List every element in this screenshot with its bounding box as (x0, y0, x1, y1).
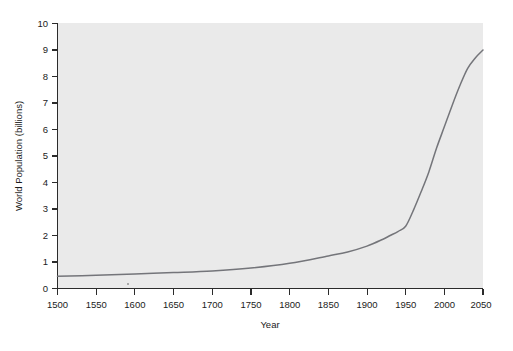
x-tick-label: 1750 (240, 299, 261, 310)
y-tick-label: 4 (43, 177, 48, 188)
figure-container: 0 1 2 3 4 5 6 7 8 9 10 (0, 0, 513, 351)
x-axis-ticks (58, 289, 484, 296)
x-tick-label: 1900 (357, 299, 378, 310)
x-tick-label: 2050 (470, 299, 491, 310)
y-tick-label: 5 (43, 150, 48, 161)
x-tick-label: 1850 (318, 299, 339, 310)
y-axis-title: World Population (billions) (13, 101, 24, 211)
x-tick-label: 1700 (202, 299, 223, 310)
x-tick-label: 2000 (434, 299, 455, 310)
x-tick-label: 1500 (47, 299, 68, 310)
x-tick-label: 1550 (86, 299, 107, 310)
plot-area-background (58, 23, 483, 288)
y-tick-label: 7 (43, 97, 48, 108)
x-tick-label: 1600 (124, 299, 145, 310)
y-axis-ticks (52, 24, 58, 289)
y-axis-tick-labels: 0 1 2 3 4 5 6 7 8 9 10 (37, 18, 48, 294)
x-axis-title: Year (260, 319, 279, 330)
world-population-line-chart: 0 1 2 3 4 5 6 7 8 9 10 (0, 0, 513, 351)
x-axis-tick-labels: 1500 1550 1600 1650 1700 1750 1800 1850 … (47, 299, 492, 310)
y-tick-label: 2 (43, 230, 48, 241)
y-tick-label: 6 (43, 124, 48, 135)
bottom-divider-rule (10, 336, 500, 339)
y-tick-label: 0 (43, 283, 48, 294)
x-tick-label: 1800 (279, 299, 300, 310)
y-tick-label: 9 (43, 44, 48, 55)
y-tick-label: 10 (37, 18, 48, 29)
scan-speck (127, 283, 129, 285)
y-tick-label: 8 (43, 71, 48, 82)
x-tick-label: 1950 (395, 299, 416, 310)
y-tick-label: 1 (43, 256, 48, 267)
x-tick-label: 1650 (163, 299, 184, 310)
y-tick-label: 3 (43, 203, 48, 214)
